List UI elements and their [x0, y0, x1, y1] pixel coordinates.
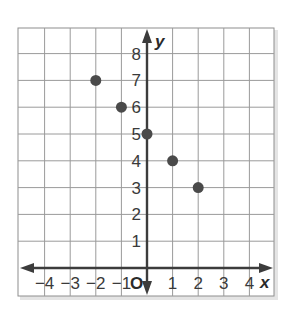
data-point	[167, 155, 178, 166]
x-tick-label: −2	[86, 274, 105, 293]
y-tick-label: 5	[132, 125, 141, 144]
data-point	[90, 75, 101, 86]
x-axis-label: x	[259, 273, 271, 292]
y-tick-label: 7	[132, 71, 141, 90]
y-tick-label: 6	[132, 98, 141, 117]
x-tick-label: 4	[245, 274, 254, 293]
data-point	[116, 102, 127, 113]
coordinate-plane: −4−3−2−1123412345678 x y O	[0, 0, 295, 316]
x-tick-label: 1	[168, 274, 177, 293]
origin-label: O	[130, 274, 143, 293]
x-tick-label: 3	[219, 274, 228, 293]
x-tick-label: −1	[112, 274, 131, 293]
x-tick-label: −4	[35, 274, 54, 293]
y-axis-label: y	[154, 32, 166, 51]
y-tick-label: 4	[132, 152, 141, 171]
x-tick-label: 2	[193, 274, 202, 293]
y-tick-label: 3	[132, 179, 141, 198]
data-point	[193, 182, 204, 193]
x-tick-label: −3	[61, 274, 80, 293]
data-point	[142, 129, 153, 140]
y-tick-label: 8	[132, 45, 141, 64]
y-tick-label: 1	[132, 232, 141, 251]
y-tick-label: 2	[132, 205, 141, 224]
